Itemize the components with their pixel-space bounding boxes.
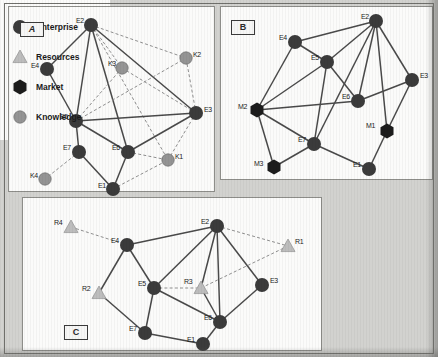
graph-edge-e2-k2	[91, 25, 186, 58]
graph-edge-e2-e6	[217, 226, 220, 322]
graph-node-k2	[180, 52, 192, 64]
graph-node-e2	[369, 14, 383, 28]
graph-edge-e3-e6	[220, 285, 262, 322]
graph-node-e7	[138, 326, 152, 340]
node-label-m3: M3	[254, 160, 263, 167]
node-label-e2: E2	[76, 17, 84, 24]
graph-node-e6	[121, 145, 135, 159]
graph-node-k1	[162, 154, 174, 166]
graph-edge-e2-e3	[217, 226, 262, 285]
graph-edge-e6-e3	[128, 113, 196, 152]
graph-node-r1	[281, 239, 295, 252]
graph-node-k4	[39, 173, 51, 185]
node-label-k3: K3	[108, 60, 116, 67]
graph-edge-e1-k1	[113, 160, 168, 189]
node-label-k2: K2	[193, 51, 201, 58]
graph-node-e3	[255, 278, 269, 292]
graph-edge-e2-r3	[201, 226, 217, 288]
node-label-e7: E7	[298, 136, 306, 143]
scan-frame: E2E4K3K2E3E5E6E7K1K4E1 E2E4E5E3E6M2M1E7M…	[0, 0, 438, 357]
graph-edge-e3-k2	[186, 58, 196, 113]
graph-node-e7	[307, 137, 321, 151]
graph-edge-e5-m2	[257, 62, 327, 110]
legend-label-enterprise: Enterprise	[36, 22, 98, 32]
graph-edge-e4-r2	[99, 245, 127, 293]
node-label-e3: E3	[270, 277, 278, 284]
legend-item-market: Market	[12, 78, 98, 96]
node-label-e5: E5	[138, 280, 146, 287]
graph-node-e1	[362, 162, 376, 176]
panel-label-a: A	[20, 22, 44, 37]
graph-edge-e4-e2	[127, 226, 217, 245]
graph-node-e4	[288, 35, 302, 49]
graph-node-e3	[189, 106, 203, 120]
graph-node-e7	[72, 145, 86, 159]
graph-node-k3	[116, 62, 128, 74]
node-label-r4: R4	[54, 219, 62, 226]
node-label-r3: R3	[184, 278, 192, 285]
graph-node-e6	[351, 94, 365, 108]
graph-node-r2	[92, 286, 106, 299]
resource-triangle-icon	[12, 49, 28, 65]
graph-node-e2	[210, 219, 224, 233]
graph-edge-e2-e3	[91, 25, 196, 113]
panel-label-b: B	[231, 20, 255, 35]
graph-node-e1	[196, 337, 210, 351]
node-label-e2: E2	[201, 218, 209, 225]
node-label-e4: E4	[111, 237, 119, 244]
graph-node-e5	[147, 281, 161, 295]
node-label-e6: E6	[342, 93, 350, 100]
node-label-k1: K1	[175, 153, 183, 160]
node-label-e5: E5	[60, 113, 68, 120]
graph-node-e1	[106, 182, 120, 196]
node-label-r1: R1	[295, 238, 303, 245]
legend-label-resource: Resources	[36, 52, 98, 62]
node-label-e4: E4	[279, 34, 287, 41]
market-hexagon-icon	[12, 79, 28, 95]
node-label-e1: E1	[353, 161, 361, 168]
node-label-e6: E6	[112, 144, 120, 151]
graph-edge-e2-r1	[217, 226, 288, 246]
graph-node-e4	[120, 238, 134, 252]
node-label-e1: E1	[187, 336, 195, 343]
node-label-k4: K4	[30, 172, 38, 179]
panel-label-c: C	[64, 325, 88, 340]
node-label-e1: E1	[98, 182, 106, 189]
graph-edge-e7-e1	[79, 152, 113, 189]
node-label-m1: M1	[366, 122, 375, 129]
node-label-m2: M2	[238, 103, 247, 110]
legend-item-knowledge: Knowledge	[12, 108, 98, 126]
node-label-e5: E5	[311, 54, 319, 61]
graph-node-e6	[213, 315, 227, 329]
graph-node-m3	[268, 160, 281, 175]
graph-edge-k3-e3	[122, 68, 196, 113]
graph-node-m2	[251, 103, 264, 118]
node-label-e3: E3	[420, 72, 428, 79]
legend-label-market: Market	[36, 82, 98, 92]
graph-node-legend-market	[14, 80, 27, 95]
node-label-e7: E7	[63, 144, 71, 151]
node-label-e4: E4	[31, 62, 39, 69]
graph-node-r4	[64, 220, 78, 233]
node-label-e6: E6	[204, 314, 212, 321]
node-label-e7: E7	[129, 325, 137, 332]
graph-node-legend-knowledge	[14, 111, 26, 123]
node-label-e2: E2	[361, 13, 369, 20]
legend-item-resource: Resources	[12, 48, 98, 66]
graph-edge-e4-m2	[257, 42, 295, 110]
graph-node-m1	[381, 124, 394, 139]
graph-node-e5	[320, 55, 334, 69]
graph-edge-e2-k1	[91, 25, 168, 160]
node-label-e3: E3	[204, 106, 212, 113]
knowledge-circle-icon	[12, 109, 28, 125]
graph-node-e3	[405, 73, 419, 87]
graph-node-r3	[194, 281, 208, 294]
graph-node-legend-resource	[13, 50, 27, 63]
graph-edge-e2-e5	[76, 25, 91, 121]
node-label-r2: R2	[82, 285, 90, 292]
graph-edge-e6-m2	[257, 101, 358, 110]
